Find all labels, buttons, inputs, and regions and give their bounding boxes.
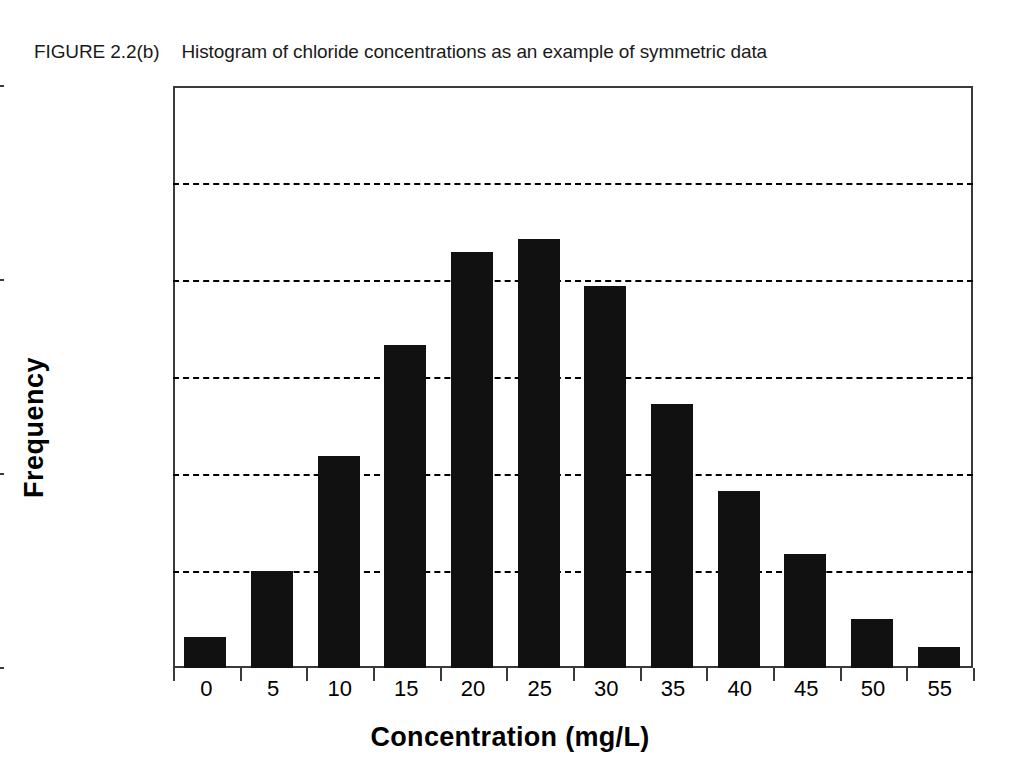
x-tick-mark: [306, 668, 308, 681]
x-tick-mark: [506, 668, 508, 681]
x-tick-label: 55: [927, 676, 951, 702]
x-tick-label: 5: [267, 676, 279, 702]
figure-caption-text: Histogram of chloride concentrations as …: [181, 41, 767, 62]
bar: [384, 345, 426, 668]
x-tick-label: 35: [661, 676, 685, 702]
x-tick-label: 25: [527, 676, 551, 702]
y-tick-mark: [0, 473, 4, 475]
bar: [518, 239, 560, 668]
x-tick-mark: [373, 668, 375, 681]
bar: [784, 554, 826, 668]
y-tick-mark: [0, 85, 4, 87]
x-tick-mark: [706, 668, 708, 681]
bar: [718, 491, 760, 669]
x-axis-title: Concentration (mg/L): [0, 722, 1020, 753]
y-tick-mark: [0, 667, 4, 669]
x-tick-mark: [440, 668, 442, 681]
x-tick-label: 20: [461, 676, 485, 702]
x-tick-label: 15: [394, 676, 418, 702]
histogram-plot: [173, 86, 973, 668]
x-tick-mark: [773, 668, 775, 681]
bars-layer: [173, 86, 973, 668]
x-tick-mark: [173, 668, 175, 681]
y-axis: 0.0020.0040.0060.00: [0, 0, 173, 780]
x-tick-label: 30: [594, 676, 618, 702]
bar: [251, 571, 293, 668]
bar: [184, 637, 226, 668]
x-tick-mark: [240, 668, 242, 681]
x-tick-label: 50: [861, 676, 885, 702]
bar: [584, 286, 626, 668]
x-tick-mark: [573, 668, 575, 681]
y-tick-mark: [0, 279, 4, 281]
bar: [651, 404, 693, 668]
x-tick-label: 40: [727, 676, 751, 702]
x-tick-label: 0: [200, 676, 212, 702]
bar: [451, 252, 493, 668]
x-tick-label: 10: [327, 676, 351, 702]
x-tick-mark: [640, 668, 642, 681]
x-tick-mark: [840, 668, 842, 681]
bar: [318, 456, 360, 668]
x-tick-mark: [906, 668, 908, 681]
bar: [918, 647, 960, 668]
x-tick-mark: [973, 668, 975, 681]
x-tick-label: 45: [794, 676, 818, 702]
bar: [851, 619, 893, 668]
